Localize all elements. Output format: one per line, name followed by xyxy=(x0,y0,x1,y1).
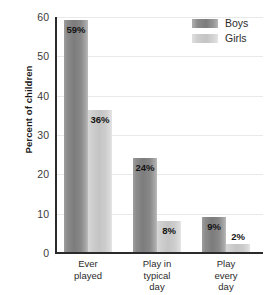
legend-item-boys: Boys xyxy=(192,16,248,31)
bar-value-label: 24% xyxy=(133,163,157,173)
x-axis-category-label: Play intypicalday xyxy=(117,258,197,293)
y-axis-tick-label: 30 xyxy=(27,130,49,141)
legend-label: Girls xyxy=(225,33,247,44)
bar-value-label: 36% xyxy=(88,115,112,125)
bar-value-label: 8% xyxy=(157,226,181,236)
bar-value-label: 9% xyxy=(202,222,226,232)
bar-boys-3: 9% xyxy=(202,217,226,252)
x-axis-category-label-line: day xyxy=(186,281,266,293)
bar-boys-1: 59% xyxy=(64,20,88,252)
bar-girls-1: 36% xyxy=(88,110,112,252)
bar-girls-2: 8% xyxy=(157,221,181,252)
bar-girls-3: 2% xyxy=(226,244,250,252)
x-axis-category-label-line: every xyxy=(186,270,266,282)
x-axis-category-label-line: day xyxy=(117,281,197,293)
y-axis-tick-label: 20 xyxy=(27,169,49,180)
bar-value-label: 2% xyxy=(226,232,250,242)
plot-area: 59%36%24%8%9%2% xyxy=(55,17,263,253)
bar-boys-2: 24% xyxy=(133,158,157,252)
x-axis-category-label-line: Ever xyxy=(48,258,128,270)
legend-item-girls: Girls xyxy=(192,31,248,46)
x-axis-category-label-line: Play in xyxy=(117,258,197,270)
x-axis-category-label-line: played xyxy=(48,270,128,282)
x-axis-category-label-line: typical xyxy=(117,270,197,282)
y-axis-tick-label: 60 xyxy=(27,12,49,23)
bar-value-label: 59% xyxy=(64,25,88,35)
x-axis-line xyxy=(55,252,263,254)
y-axis-tick-label: 40 xyxy=(27,91,49,102)
x-axis-category-label: Playeveryday xyxy=(186,258,266,293)
legend: BoysGirls xyxy=(192,16,248,46)
legend-label: Boys xyxy=(225,18,248,29)
legend-swatch-girls xyxy=(192,34,218,43)
y-axis-line xyxy=(55,17,57,253)
legend-swatch-boys xyxy=(192,19,218,28)
x-axis-category-label: Everplayed xyxy=(48,258,128,281)
y-axis-tick-label: 0 xyxy=(27,248,49,259)
x-axis-category-label-line: Play xyxy=(186,258,266,270)
bar-chart: Percent of children 0102030405060 59%36%… xyxy=(0,0,269,295)
y-axis-tick-label: 50 xyxy=(27,51,49,62)
y-axis-tick-label: 10 xyxy=(27,209,49,220)
